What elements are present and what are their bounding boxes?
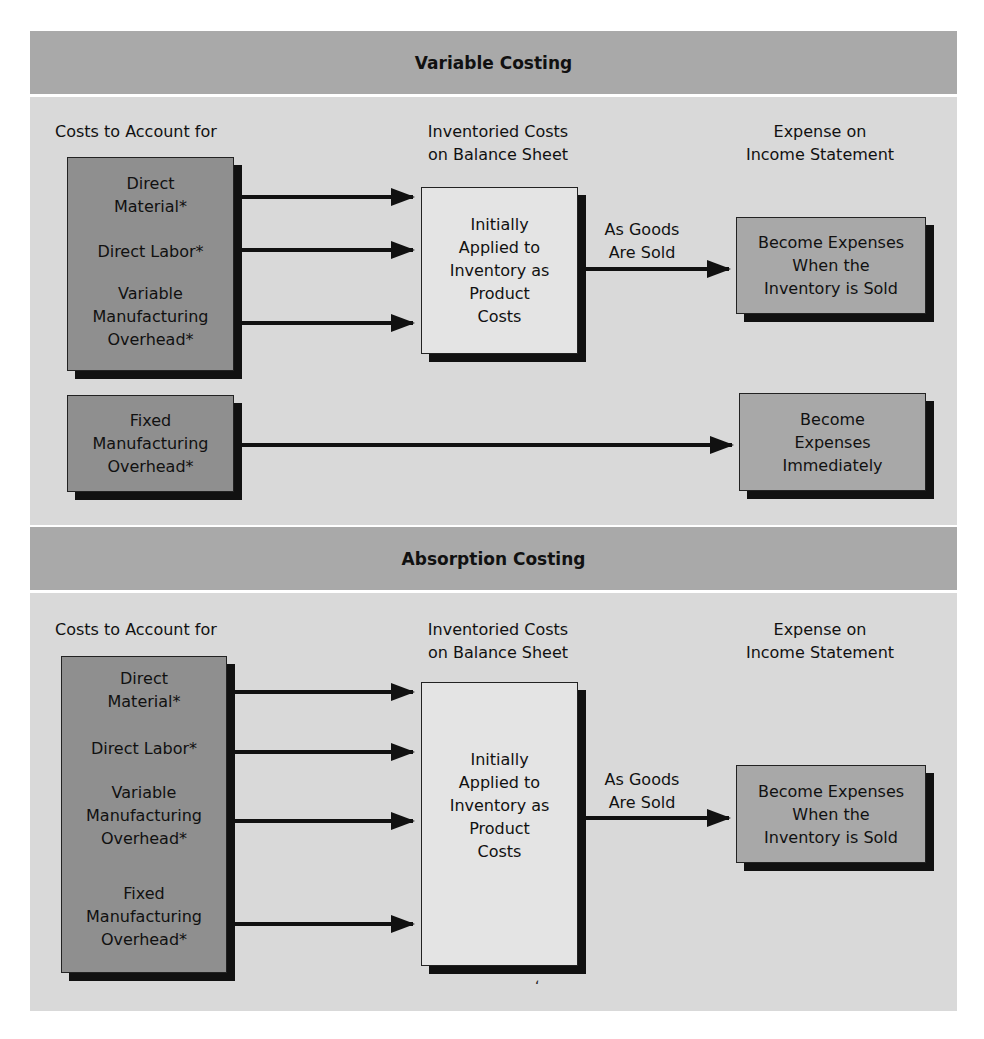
vc-product-costs-box: Direct Material* Direct Labor* Variable … [67,157,234,371]
vc-arrow-direct-labor [241,248,413,252]
ac-variable-moh: Variable Manufacturing Overhead* [62,781,226,850]
ac-arrow-variable-moh [234,819,413,823]
vc-inventory-box: Initially Applied to Inventory as Produc… [421,187,578,354]
vc-column-inventoried-costs: Inventoried Costs on Balance Sheet [408,120,588,166]
absorption-costing-title: Absorption Costing [402,549,586,569]
vc-arrow-goods-sold [586,267,729,271]
ac-expense-when-sold-box: Become Expenses When the Inventory is So… [736,765,926,863]
vc-arrow-fixed-moh [241,443,732,447]
ac-arrow-fixed-moh [234,922,413,926]
absorption-costing-header: Absorption Costing [30,527,957,590]
ac-column-costs-to-account: Costs to Account for [55,618,217,641]
ac-direct-material: Direct Material* [62,667,226,713]
stray-mark: ʻ [535,978,539,994]
ac-arrow-direct-labor [234,750,413,754]
ac-as-goods-are-sold-label: As Goods Are Sold [592,768,692,814]
variable-costing-header: Variable Costing [30,31,957,94]
ac-arrow-direct-material [234,690,413,694]
vc-fixed-moh-box: Fixed Manufacturing Overhead* [67,395,234,492]
vc-column-expense-income: Expense on Income Statement [720,120,920,166]
ac-column-expense-income: Expense on Income Statement [720,618,920,664]
vc-as-goods-are-sold-label: As Goods Are Sold [592,218,692,264]
variable-costing-title: Variable Costing [415,53,572,73]
ac-fixed-moh: Fixed Manufacturing Overhead* [62,882,226,951]
vc-arrow-direct-material [241,195,413,199]
vc-expense-when-sold-box: Become Expenses When the Inventory is So… [736,217,926,314]
vc-arrow-variable-moh [241,321,413,325]
vc-direct-labor: Direct Labor* [68,240,233,263]
ac-direct-labor: Direct Labor* [62,737,226,760]
ac-inventory-box: Initially Applied to Inventory as Produc… [421,682,578,966]
ac-column-inventoried-costs: Inventoried Costs on Balance Sheet [408,618,588,664]
vc-expense-immediately-box: Become Expenses Immediately [739,393,926,491]
ac-product-costs-box: Direct Material* Direct Labor* Variable … [61,656,227,973]
ac-arrow-goods-sold [586,816,729,820]
vc-direct-material: Direct Material* [68,172,233,218]
vc-variable-moh: Variable Manufacturing Overhead* [68,282,233,351]
vc-column-costs-to-account: Costs to Account for [55,120,217,143]
